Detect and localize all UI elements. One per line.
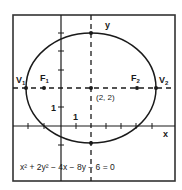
vertex-v2-label: V2 xyxy=(159,75,169,86)
x-axis-label: x xyxy=(163,129,168,139)
vertex-v1-label: V1 xyxy=(16,75,26,86)
focus-f1-dot xyxy=(42,86,46,90)
y-axis-label: y xyxy=(105,20,110,30)
ellipse-diagram: y x V1 F1 F2 V2 (2, 2) 1 1 x² + 2y² − 4x… xyxy=(0,0,182,190)
x-tick-label-1: 1 xyxy=(73,112,78,122)
top-vertex-dot xyxy=(89,31,93,35)
vertex-v1-dot xyxy=(24,86,28,90)
focus-f2-dot xyxy=(135,86,139,90)
bottom-vertex-dot xyxy=(89,141,93,145)
focus-f1-label: F1 xyxy=(40,73,50,84)
ellipse-equation: x² + 2y² − 4x − 8y − 6 = 0 xyxy=(20,162,115,172)
diagram-frame xyxy=(13,15,175,181)
vertex-v2-dot xyxy=(154,86,158,90)
y-tick-label-1: 1 xyxy=(51,103,56,113)
focus-f2-label: F2 xyxy=(131,73,141,84)
center-label: (2, 2) xyxy=(96,93,115,102)
center-dot xyxy=(89,86,93,90)
